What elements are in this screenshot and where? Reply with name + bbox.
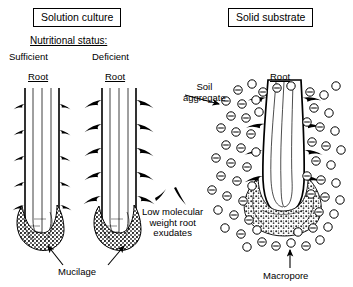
soil-aggregate-line1: Soil <box>196 81 212 92</box>
figure-root-rhizosphere: Solution culture Solid substrate Nutriti… <box>0 0 353 287</box>
root-exudates-line3: exudates <box>153 227 192 238</box>
label-sufficient: Sufficient <box>9 51 48 62</box>
label-macropore: Macropore <box>263 270 308 281</box>
root-exudates-line2: weight root <box>149 217 195 228</box>
label-root-deficient: Root <box>105 71 125 82</box>
root-exudates-line1: Low molecular <box>142 206 203 217</box>
nutritional-status-heading: Nutritional status: <box>30 35 107 46</box>
label-root-exudates: Low molecular weight root exudates <box>142 207 203 239</box>
soil-aggregate-line2: aggregate <box>183 92 226 103</box>
label-mucilage: Mucilage <box>58 266 96 277</box>
label-root-soil: Root <box>270 71 290 82</box>
panel-title-solid-substrate: Solid substrate <box>228 8 313 27</box>
root-sufficient <box>13 88 72 251</box>
panel-title-solution-culture: Solution culture <box>33 8 121 27</box>
label-root-sufficient: Root <box>28 71 48 82</box>
label-deficient: Deficient <box>92 51 129 62</box>
label-soil-aggregate: Soil aggregate <box>183 81 226 103</box>
